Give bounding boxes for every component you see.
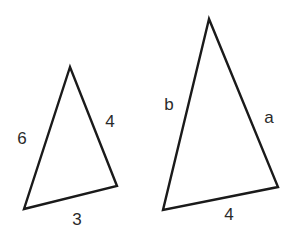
- large-triangle: [163, 19, 278, 210]
- small-triangle: [24, 67, 117, 209]
- large-triangle-left-side-label: b: [164, 95, 173, 114]
- small-triangle-right-side-label: 4: [105, 112, 114, 131]
- large-triangle-right-side-label: a: [264, 108, 274, 127]
- large-triangle-bottom-side-label: 4: [224, 205, 233, 224]
- large-triangle-group: b a 4: [163, 19, 278, 224]
- small-triangle-group: 6 4 3: [17, 67, 117, 229]
- small-triangle-bottom-side-label: 3: [72, 210, 81, 229]
- similar-triangles-diagram: 6 4 3 b a 4: [0, 0, 293, 238]
- small-triangle-left-side-label: 6: [17, 129, 26, 148]
